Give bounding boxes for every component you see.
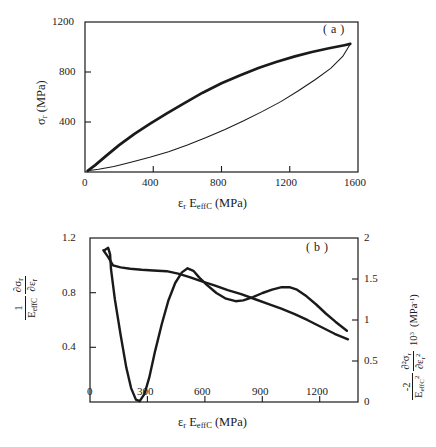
panel-b-xtick-0: 0 bbox=[87, 385, 93, 397]
panel-a-xtick-0: 0 bbox=[82, 176, 88, 188]
panel-b-first-derivative-curve bbox=[103, 250, 348, 339]
panel-a-x-axis-title: εr EeffC (MPa) bbox=[178, 196, 247, 211]
panel-a-loading-curve bbox=[88, 44, 351, 171]
panel-b-right-scale-factor: 103 bbox=[408, 332, 419, 346]
panel-b-right-prefactor: -2 EeffC2 bbox=[401, 373, 426, 400]
panel-b-xlabel-E: E bbox=[189, 415, 197, 429]
panel-b-plot bbox=[0, 222, 436, 447]
panel-a-ytick-1200: 1200 bbox=[52, 15, 74, 27]
panel-a-xtick-1200: 1200 bbox=[275, 176, 297, 188]
panel-a-xtick-800: 800 bbox=[210, 176, 227, 188]
panel-b-right-prefactor-num: -2 bbox=[401, 373, 412, 400]
panel-b-y-axis-title-right: -2 EeffC2 ∂²σr ∂εr2 103 (MPa-1) bbox=[400, 294, 428, 400]
panel-b-xtick-1200: 1200 bbox=[306, 385, 328, 397]
panel-a-xtick-400: 400 bbox=[142, 176, 159, 188]
panel-b-left-prefactor: 1 EeffC bbox=[13, 296, 38, 320]
panel-a-xlabel-unit: (MPa) bbox=[215, 196, 247, 210]
panel-a-xlabel-E-sub: effC bbox=[197, 201, 212, 211]
panel-a-ylabel-sigma-sub: r bbox=[39, 115, 49, 118]
panel-b-label: ( b ) bbox=[306, 240, 329, 255]
panel-b-ytick-right-0: 0 bbox=[364, 395, 370, 407]
panel-a-axes-frame bbox=[85, 22, 358, 172]
panel-b-ytick-left-0.8: 0.8 bbox=[62, 286, 76, 298]
panel-b-y-axis-title-left: 1 EeffC ∂σr ∂εr bbox=[12, 276, 39, 320]
panel-b-xlabel-unit: (MPa) bbox=[215, 415, 247, 429]
panel-a-xtick-1600: 1600 bbox=[344, 176, 366, 188]
panel-b-left-derivative-num: ∂σr bbox=[12, 276, 25, 294]
panel-b-ytick-right-2: 2 bbox=[364, 231, 370, 243]
panel-b-xtick-900: 900 bbox=[252, 385, 269, 397]
panel-b-right-derivative-num: ∂²σr bbox=[400, 351, 413, 371]
panel-a-ylabel-unit: (MPa) bbox=[34, 80, 48, 112]
panel-b-ytick-left-0.4: 0.4 bbox=[62, 340, 76, 352]
panel-a-label: ( a ) bbox=[323, 22, 345, 37]
panel-b-ytick-right-1.5: 1.5 bbox=[364, 272, 378, 284]
panel-b-xlabel-E-sub: effC bbox=[197, 420, 212, 430]
panel-b-x-axis-title: εr EeffC (MPa) bbox=[178, 415, 247, 430]
panel-b-right-unit: (MPa-1) bbox=[408, 294, 419, 327]
panel-b-ytick-right-1: 1 bbox=[364, 313, 370, 325]
panel-a-ytick-800: 800 bbox=[59, 65, 76, 77]
panel-a-xlabel-eps-sub: r bbox=[183, 201, 186, 211]
panel-b-y-ticks-right bbox=[352, 279, 358, 361]
panel-b-right-derivative-den: ∂εr2 bbox=[413, 351, 427, 371]
panel-a-y-ticks bbox=[85, 72, 91, 122]
panel-a-plot bbox=[0, 0, 436, 205]
panel-a-x-ticks bbox=[153, 166, 290, 172]
panel-b-left-derivative-den: ∂εr bbox=[25, 276, 39, 294]
panel-a-unloading-curve bbox=[88, 44, 351, 171]
panel-b-xtick-600: 600 bbox=[194, 385, 211, 397]
panel-b-left-derivative: ∂σr ∂εr bbox=[12, 276, 38, 294]
panel-b-xlabel-eps-sub: r bbox=[183, 420, 186, 430]
panel-a-y-axis-title: σr (MPa) bbox=[34, 80, 49, 125]
panel-b-right-prefactor-den: EeffC2 bbox=[412, 373, 426, 400]
panel-b-ytick-left-1.2: 1.2 bbox=[62, 231, 76, 243]
panel-b-right-derivative: ∂²σr ∂εr2 bbox=[400, 351, 428, 371]
panel-a-xlabel-E: E bbox=[189, 196, 197, 210]
panel-b-left-prefactor-den: EeffC bbox=[25, 296, 39, 320]
panel-b-ytick-right-0.5: 0.5 bbox=[364, 354, 378, 366]
panel-b-axes-frame bbox=[90, 238, 358, 402]
panel-b-left-prefactor-num: 1 bbox=[13, 296, 25, 320]
panel-a-ytick-400: 400 bbox=[59, 115, 76, 127]
panel-b-x-ticks bbox=[147, 396, 319, 402]
panel-b-xtick-300: 300 bbox=[137, 385, 154, 397]
panel-b-y-ticks-left bbox=[90, 293, 96, 348]
figure-root: ( a ) 1200 800 400 0 400 800 1200 1600 σ… bbox=[0, 0, 436, 447]
panel-a-ylabel-sigma: σ bbox=[34, 118, 48, 125]
